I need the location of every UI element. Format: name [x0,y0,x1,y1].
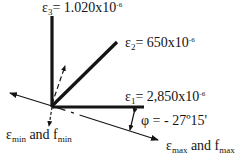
principal-min-down-arrow [49,107,52,126]
principal-axis-min-side [10,93,52,106]
angle-phi-indicator [130,113,134,130]
angle-phi-label: φ = - 27º15' [141,114,207,128]
principal-min-label: εmin and fmin [6,128,72,142]
principal-max-label: εmax and fmax [166,139,235,153]
gauge-2-line [52,42,117,106]
gauge-1-label: ε1= 2,850x10-6 [125,90,205,104]
gauge-2-label: ε2= 650x10-6 [125,36,195,50]
gauge-3-label: ε3= 1.020x10-6 [42,1,122,15]
